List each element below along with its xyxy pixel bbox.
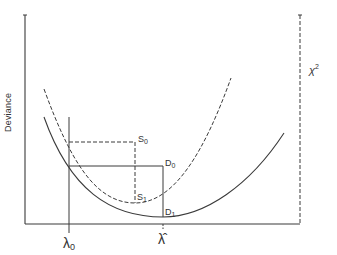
- d1-label: D1: [165, 208, 175, 218]
- d0-label: D0: [165, 159, 175, 169]
- d0-subscript: 0: [172, 162, 176, 169]
- chi-square-label: χ2: [309, 63, 319, 76]
- lambda0-symbol: λ: [63, 235, 70, 251]
- chi-superscript: 2: [315, 63, 319, 70]
- s1-label: S1: [137, 193, 147, 203]
- s1-subscript: 1: [143, 196, 147, 203]
- d1-subscript: 1: [172, 211, 176, 218]
- lambda-hat-label: λ̂: [158, 232, 165, 246]
- lambda0-subscript: 0: [70, 242, 75, 252]
- lambda0-label: λ0: [63, 236, 75, 252]
- s0-label: S0: [138, 135, 148, 145]
- lambda-hat-symbol: λ̂: [158, 231, 165, 247]
- y-axis-label: Deviance: [4, 93, 13, 132]
- s0-subscript: 0: [144, 138, 148, 145]
